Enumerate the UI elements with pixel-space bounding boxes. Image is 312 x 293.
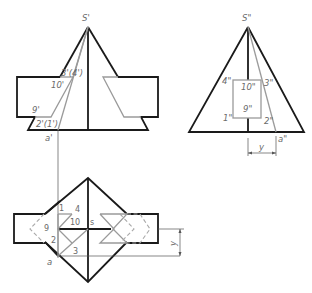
top-view: 1 4 9 10 s 2 3 a y [14, 178, 184, 282]
front-construction-a [58, 27, 88, 130]
top-right-chevron-hidden [127, 214, 150, 243]
label-1: 1 [59, 204, 64, 213]
label-2-double-prime: 2" [264, 116, 273, 126]
label-9-double-prime: 9" [243, 104, 252, 114]
label-4: 4 [75, 205, 80, 214]
label-10-prime: 10' [51, 80, 64, 90]
label-9-prime: 9' [32, 105, 40, 115]
label-1-double-prime: 1" [223, 113, 232, 123]
label-dim-y-side: y [258, 142, 265, 152]
front-pyramid-right-edge [88, 27, 118, 77]
label-a-double-prime: a" [278, 134, 287, 144]
label-2: 2 [51, 236, 56, 245]
top-diamond-upper [45, 178, 127, 214]
top-left-chevron-hidden [30, 214, 44, 243]
top-prism-right [127, 214, 158, 243]
label-3-double-prime: 3" [264, 78, 273, 88]
top-dim-arrow-bottom [179, 252, 182, 256]
label-a: a [47, 257, 52, 267]
label-s-prime: S' [82, 13, 90, 23]
label-s: s [90, 218, 94, 227]
label-4-double-prime: 4" [222, 76, 231, 86]
label-dim-y-top: y [168, 240, 178, 247]
side-dim-arrow-right [272, 152, 276, 155]
label-9: 9 [44, 224, 49, 233]
top-dim-arrow-top [179, 229, 182, 233]
label-a-prime: a' [45, 133, 53, 143]
top-diamond-lower [45, 242, 127, 282]
label-10: 10 [70, 218, 80, 227]
label-3-4-prime: 3'(4') [61, 68, 83, 78]
projection-drawing: S' 3'(4') 10' 9' 2'(1') a' S" 4" 10" 3" … [0, 0, 312, 293]
label-3: 3 [73, 247, 78, 256]
label-2-1-prime: 2'(1') [36, 119, 58, 129]
side-view: S" 4" 10" 3" 9" 1" 2" a" y [189, 13, 304, 156]
front-hole-right [103, 77, 141, 117]
label-s-double-prime: S" [242, 13, 251, 23]
label-10-double-prime: 10" [241, 82, 256, 92]
side-dim-arrow-left [248, 152, 252, 155]
